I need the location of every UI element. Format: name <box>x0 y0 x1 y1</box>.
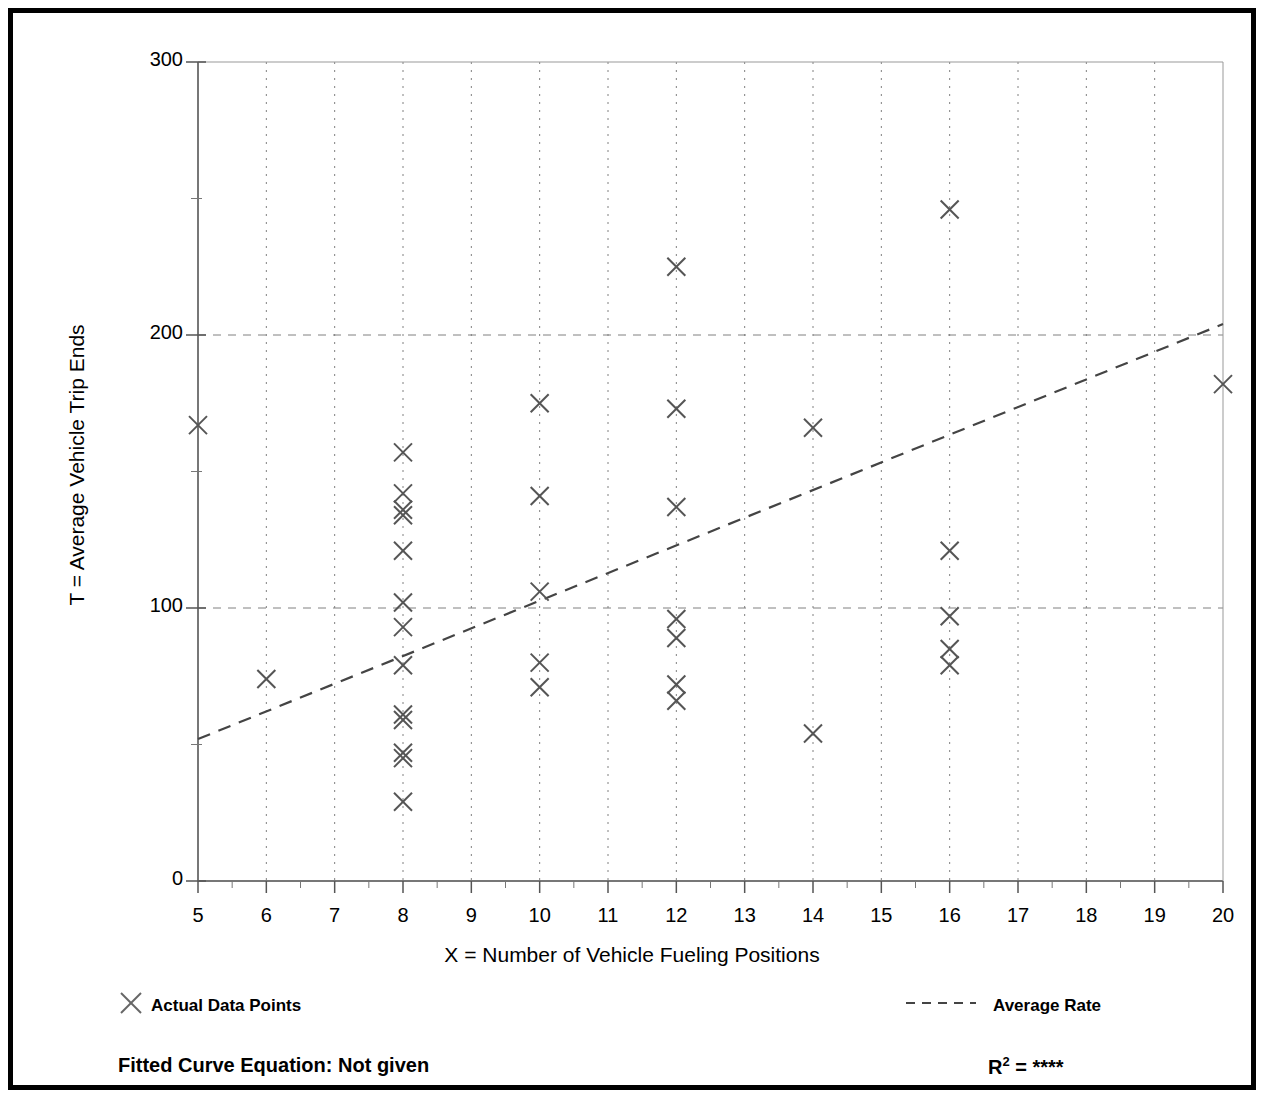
legend-label-average-rate: Average Rate <box>993 996 1101 1016</box>
x-tick-label: 18 <box>1056 904 1116 927</box>
data-point-marker <box>531 394 549 412</box>
x-tick-label: 12 <box>646 904 706 927</box>
y-axis-title: T = Average Vehicle Trip Ends <box>65 215 89 715</box>
r-squared-value: R2 = **** <box>988 1054 1064 1079</box>
data-point-marker <box>531 583 549 601</box>
x-tick-label: 8 <box>373 904 433 927</box>
r-squared-base: R <box>988 1056 1002 1078</box>
x-axis-title: X = Number of Vehicle Fueling Positions <box>13 943 1251 967</box>
data-point-markers <box>189 200 1232 810</box>
x-tick-label: 11 <box>578 904 638 927</box>
y-tick-label: 300 <box>93 48 183 71</box>
y-tick-marks <box>186 62 206 881</box>
x-tick-label: 9 <box>441 904 501 927</box>
x-tick-marks <box>198 881 1223 893</box>
data-point-marker <box>941 542 959 560</box>
x-tick-label: 15 <box>851 904 911 927</box>
x-tick-label: 6 <box>236 904 296 927</box>
fitted-curve-equation: Fitted Curve Equation: Not given <box>118 1054 429 1077</box>
x-tick-label: 17 <box>988 904 1048 927</box>
x-tick-label: 7 <box>305 904 365 927</box>
data-point-marker <box>531 654 549 672</box>
data-point-marker <box>667 610 685 628</box>
y-tick-label: 200 <box>93 321 183 344</box>
legend-label-actual-data-points: Actual Data Points <box>151 996 301 1016</box>
data-point-marker <box>257 670 275 688</box>
data-point-marker <box>667 258 685 276</box>
x-tick-label: 16 <box>920 904 980 927</box>
vertical-gridlines <box>266 62 1154 881</box>
r-squared-number: = **** <box>1010 1056 1064 1078</box>
data-point-marker <box>667 498 685 516</box>
x-tick-label: 10 <box>510 904 570 927</box>
horizontal-gridlines <box>198 335 1223 608</box>
x-tick-label: 5 <box>168 904 228 927</box>
data-point-marker <box>394 594 412 612</box>
x-tick-label: 19 <box>1125 904 1185 927</box>
average-rate-trend-line <box>198 324 1223 739</box>
axis-lines <box>198 62 1223 881</box>
x-tick-label: 14 <box>783 904 843 927</box>
data-point-marker <box>804 419 822 437</box>
r-squared-exponent: 2 <box>1002 1054 1009 1069</box>
figure-frame: 567891011121314151617181920 0100200300 X… <box>8 8 1256 1090</box>
plot-stage: 567891011121314151617181920 0100200300 X… <box>13 13 1251 1085</box>
data-point-marker <box>394 618 412 636</box>
legend-x-marker-icon <box>121 993 141 1013</box>
y-tick-label: 100 <box>93 594 183 617</box>
y-tick-label: 0 <box>93 867 183 890</box>
data-point-marker <box>394 793 412 811</box>
data-point-marker <box>531 678 549 696</box>
data-point-marker <box>394 542 412 560</box>
x-tick-label: 20 <box>1193 904 1253 927</box>
x-tick-label: 13 <box>715 904 775 927</box>
